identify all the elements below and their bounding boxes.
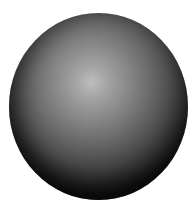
shaded-sphere: shaded gray sphere: [9, 13, 188, 200]
sphere-description: shaded gray sphere: [9, 13, 10, 14]
image-canvas: shaded gray sphere: [0, 0, 192, 207]
